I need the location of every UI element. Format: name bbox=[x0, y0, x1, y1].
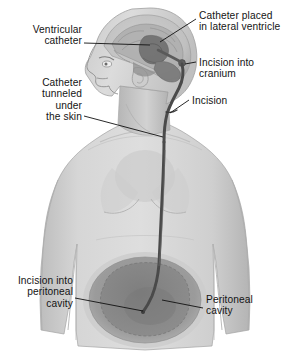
cavity-core-shadow bbox=[124, 287, 176, 325]
label-incision-into-cranium: Incision into cranium bbox=[199, 57, 287, 80]
peritoneal-cavity bbox=[83, 252, 207, 348]
label-incision-into-peritoneal-cavity: Incision into peritoneal cavity bbox=[0, 275, 73, 309]
label-peritoneal-cavity: Peritoneal cavity bbox=[206, 294, 288, 317]
label-catheter-placed-lateral-ventricle: Catheter placed in lateral ventricle bbox=[199, 10, 291, 33]
neck bbox=[118, 86, 170, 135]
pupil bbox=[105, 63, 108, 66]
label-incision-neck: Incision bbox=[192, 95, 262, 106]
vp-shunt-diagram: Ventricular catheter Catheter placed in … bbox=[0, 0, 291, 360]
label-catheter-tunneled-under-skin: Catheter tunneled under the skin bbox=[0, 77, 82, 123]
label-ventricular-catheter: Ventricular catheter bbox=[0, 24, 82, 47]
neck-silhouette bbox=[118, 86, 170, 135]
